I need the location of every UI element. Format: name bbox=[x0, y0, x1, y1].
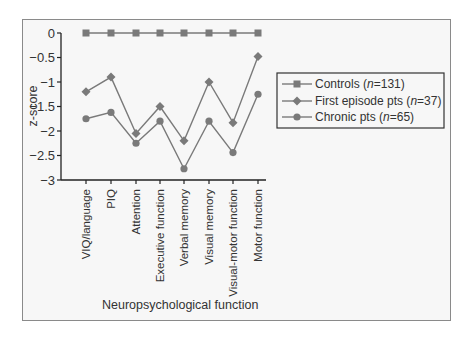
y-tick-label: −1 bbox=[40, 75, 55, 90]
diamond-marker bbox=[293, 97, 302, 106]
legend-entry: First episode pts (n=37) bbox=[315, 94, 441, 108]
y-tick-label: −2.5 bbox=[29, 148, 55, 163]
y-axis-title: z-score bbox=[26, 85, 40, 126]
series-diamond bbox=[82, 52, 263, 145]
square-marker bbox=[255, 30, 262, 37]
series-square bbox=[83, 30, 262, 37]
square-marker bbox=[133, 30, 140, 37]
diamond-marker bbox=[82, 87, 91, 96]
square-marker bbox=[230, 30, 237, 37]
circle-marker bbox=[180, 165, 187, 172]
diamond-marker bbox=[205, 78, 214, 87]
diamond-marker bbox=[229, 118, 238, 127]
circle-marker bbox=[205, 118, 212, 125]
square-marker bbox=[157, 30, 164, 37]
y-tick-label: −0.5 bbox=[29, 50, 55, 65]
y-tick-label: 0 bbox=[48, 26, 55, 41]
legend: Controls (n=131)First episode pts (n=37)… bbox=[277, 73, 444, 128]
diamond-marker bbox=[254, 52, 263, 61]
series-circle bbox=[82, 91, 261, 173]
x-category-label: PIQ bbox=[105, 189, 117, 209]
x-category-label: Executive function bbox=[154, 189, 166, 282]
square-marker bbox=[294, 81, 301, 88]
circle-marker bbox=[82, 115, 89, 122]
x-axis-title: Neuropsychological function bbox=[102, 298, 258, 312]
circle-marker bbox=[132, 140, 139, 147]
square-marker bbox=[181, 30, 188, 37]
circle-marker bbox=[156, 118, 163, 125]
x-category-label: Motor function bbox=[252, 189, 264, 262]
circle-marker bbox=[293, 113, 300, 120]
x-category-label: Visual-motor function bbox=[227, 189, 239, 297]
diamond-marker bbox=[180, 136, 189, 145]
y-tick-label: −2 bbox=[40, 124, 55, 139]
x-category-label: Visual memory bbox=[203, 189, 215, 265]
square-marker bbox=[83, 30, 90, 37]
square-marker bbox=[108, 30, 115, 37]
circle-marker bbox=[229, 149, 236, 156]
x-category-label: Verbal memory bbox=[178, 189, 190, 267]
square-marker bbox=[206, 30, 213, 37]
legend-entry: Controls (n=131) bbox=[315, 77, 405, 91]
diamond-marker bbox=[107, 73, 116, 82]
circle-marker bbox=[254, 91, 261, 98]
circle-marker bbox=[107, 109, 114, 116]
x-category-label: Attention bbox=[130, 189, 142, 234]
x-category-label: VIQ/language bbox=[80, 189, 92, 259]
line-chart: 0−0.5−1−1.5−2−2.5−3z-scoreVIQ/languagePI… bbox=[0, 0, 468, 339]
y-tick-label: −3 bbox=[40, 173, 55, 188]
legend-entry: Chronic pts (n=65) bbox=[315, 110, 414, 124]
